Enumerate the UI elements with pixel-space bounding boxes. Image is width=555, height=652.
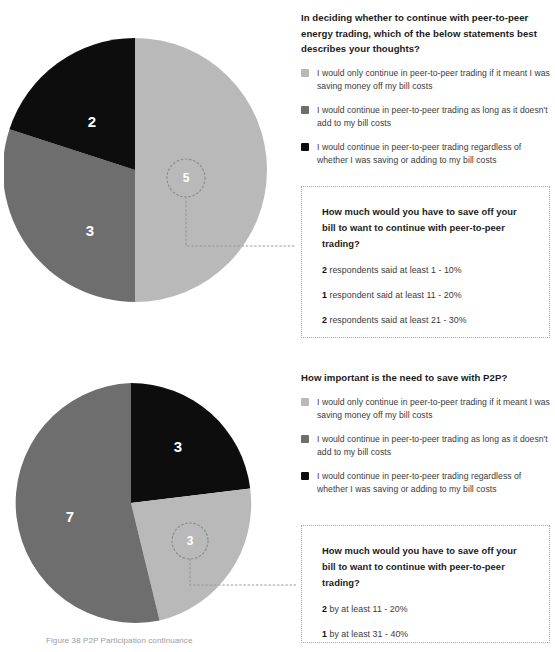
- pie-chart-top: 3 2 5: [4, 22, 296, 322]
- callout-line-text: respondent said at least 11 - 20%: [327, 290, 462, 300]
- pie-slice-value-dark: 2: [88, 113, 96, 130]
- legend-item: I would continue in peer-to-peer trading…: [301, 433, 551, 460]
- callout-line: 2 respondents said at least 1 - 10%: [322, 264, 532, 277]
- legend-swatch-dark: [301, 143, 309, 151]
- legend-swatch-dark: [301, 472, 309, 480]
- callout-line: 1 respondent said at least 11 - 20%: [322, 289, 532, 302]
- legend-swatch-light: [301, 398, 309, 406]
- legend-item-label: I would continue in peer-to-peer trading…: [317, 141, 551, 168]
- callout-line-text: respondents said at least 1 - 10%: [327, 265, 462, 275]
- legend-item: I would continue in peer-to-peer trading…: [301, 141, 551, 168]
- callout-heading: How much would you have to save off your…: [322, 204, 532, 253]
- pie-chart-bottom: 3 7 3: [4, 379, 296, 645]
- callout-line: 2 respondents said at least 21 - 30%: [322, 314, 532, 327]
- legend-item-label: I would only continue in peer-to-peer tr…: [317, 67, 551, 94]
- pie-slice-value-light: 3: [187, 534, 194, 548]
- section-2: How important is the need to save with P…: [301, 370, 551, 497]
- figure-page: 3 2 5 3 7 3: [0, 0, 555, 652]
- text-column: In deciding whether to continue with pee…: [301, 0, 555, 652]
- callout-line-text: by at least 31 - 40%: [327, 629, 408, 639]
- callout-line-text: by at least 11 - 20%: [327, 604, 408, 614]
- legend-item: I would only continue in peer-to-peer tr…: [301, 67, 551, 94]
- legend-item: I would only continue in peer-to-peer tr…: [301, 396, 551, 423]
- pie-slice-light: [135, 38, 267, 302]
- pie-slice-value-light: 5: [183, 171, 190, 185]
- pie-slice-value-medium: 7: [66, 508, 74, 525]
- pie-slice-value-dark: 3: [174, 438, 182, 455]
- legend-item-label: I would continue in peer-to-peer trading…: [317, 433, 551, 460]
- callout-line-text: respondents said at least 21 - 30%: [327, 315, 467, 325]
- callout-line: 2 by at least 11 - 20%: [322, 603, 532, 616]
- legend-item-label: I would continue in peer-to-peer trading…: [317, 470, 551, 497]
- section-1-legend: I would only continue in peer-to-peer tr…: [301, 67, 551, 168]
- section-2-legend: I would only continue in peer-to-peer tr…: [301, 396, 551, 497]
- legend-item: I would continue in peer-to-peer trading…: [301, 104, 551, 131]
- charts-column: 3 2 5 3 7 3: [0, 0, 296, 652]
- legend-swatch-medium: [301, 435, 309, 443]
- section-1: In deciding whether to continue with pee…: [301, 10, 551, 168]
- section-2-question: How important is the need to save with P…: [301, 370, 551, 386]
- legend-item: I would continue in peer-to-peer trading…: [301, 470, 551, 497]
- legend-item-label: I would continue in peer-to-peer trading…: [317, 104, 551, 131]
- callout-line: 1 by at least 31 - 40%: [322, 628, 532, 641]
- pie-slice-dark: [131, 383, 250, 503]
- section-2-callout: How much would you have to save off your…: [301, 525, 550, 643]
- section-1-question: In deciding whether to continue with pee…: [301, 10, 551, 57]
- legend-item-label: I would only continue in peer-to-peer tr…: [317, 396, 551, 423]
- legend-swatch-light: [301, 69, 309, 77]
- legend-swatch-medium: [301, 106, 309, 114]
- callout-heading: How much would you have to save off your…: [322, 543, 532, 592]
- pie-slice-value-medium: 3: [86, 222, 94, 239]
- section-1-callout: How much would you have to save off your…: [301, 186, 550, 338]
